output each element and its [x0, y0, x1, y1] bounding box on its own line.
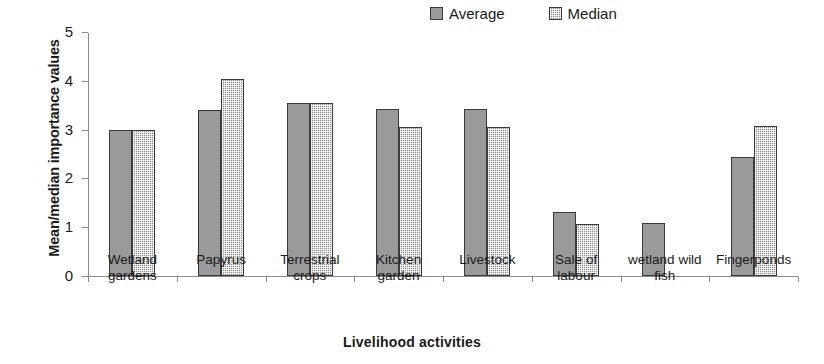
y-axis-tick-label: 4 [65, 72, 73, 89]
legend-item-median: Median [549, 5, 617, 22]
x-axis-tick [798, 277, 799, 282]
bar-avg-4 [464, 109, 487, 276]
y-axis-tick: 2 [82, 178, 88, 179]
legend-label-median: Median [568, 5, 617, 22]
chart-legend: Average Median [430, 5, 617, 22]
bar-chart-figure: Mean/median importance values 012345 Wet… [0, 0, 824, 364]
bar-avg-2 [287, 103, 310, 276]
category-label-line: gardens [80, 268, 185, 284]
x-axis-category-label: Fingerponds [701, 252, 806, 268]
y-axis-tick: 4 [82, 81, 88, 82]
y-axis-tick: 5 [82, 32, 88, 33]
y-axis-tick: 1 [82, 227, 88, 228]
category-label-line: Fingerponds [701, 252, 806, 268]
category-label-line: fish [613, 268, 718, 284]
bar-med-2 [310, 103, 333, 276]
x-axis-title: Livelihood activities [0, 334, 824, 350]
legend-item-average: Average [430, 5, 505, 22]
category-label-line: garden [346, 268, 451, 284]
legend-label-average: Average [449, 5, 505, 22]
bar-avg-3 [376, 109, 399, 276]
legend-swatch-median-icon [549, 7, 562, 20]
y-axis-line [88, 33, 89, 277]
y-axis-tick-label: 1 [65, 218, 73, 235]
legend-swatch-average-icon [430, 7, 443, 20]
y-axis-tick: 3 [82, 130, 88, 131]
y-axis-tick-label: 3 [65, 121, 73, 138]
y-axis-title: Mean/median importance values [46, 18, 62, 278]
plot-area: 012345 [88, 33, 798, 277]
y-axis-tick-label: 2 [65, 169, 73, 186]
y-axis-tick-label: 5 [65, 23, 73, 40]
bar-med-1 [221, 79, 244, 276]
y-axis-tick-label: 0 [65, 267, 73, 284]
